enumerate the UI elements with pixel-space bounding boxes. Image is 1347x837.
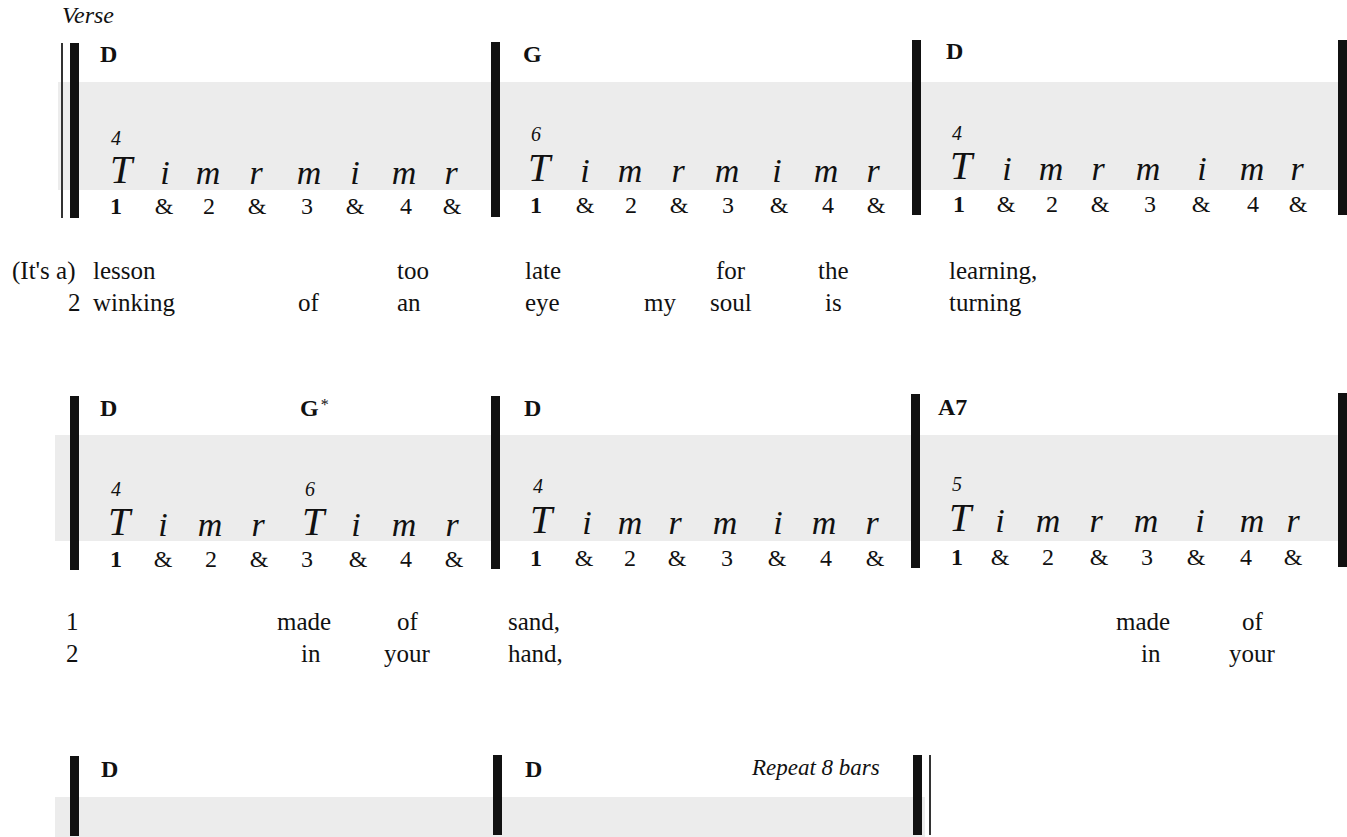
beat-count: & xyxy=(1090,545,1109,569)
lyric-word: lesson xyxy=(93,258,156,283)
beat-count: & xyxy=(576,193,595,217)
beat-count: & xyxy=(155,194,174,218)
beat-count: & xyxy=(248,194,267,218)
beat-count: 3 xyxy=(722,193,734,217)
chord-symbol: D xyxy=(101,756,118,783)
beat-count: & xyxy=(1192,192,1211,216)
beat-count: 1 xyxy=(110,547,122,571)
fingering: i xyxy=(158,508,167,542)
fingering: i xyxy=(995,504,1004,538)
fingering: m xyxy=(1240,152,1265,186)
fingering: r xyxy=(444,156,457,190)
lyric-word: made xyxy=(1116,609,1170,634)
lyric-word: is xyxy=(825,290,842,315)
fingering: m xyxy=(196,156,221,190)
beat-count: & xyxy=(250,547,269,571)
beat-count: 2 xyxy=(1042,545,1054,569)
lyric-word: made xyxy=(277,609,331,634)
fingering: T xyxy=(108,502,130,542)
lyric-word: turning xyxy=(949,290,1021,315)
barline xyxy=(1338,40,1347,215)
beat-count: & xyxy=(991,545,1010,569)
barline xyxy=(911,394,920,568)
beat-count: 3 xyxy=(301,547,313,571)
fingering: m xyxy=(618,154,643,188)
beat-count: 1 xyxy=(530,546,542,570)
beat-count: & xyxy=(154,547,173,571)
fret-number: 4 xyxy=(111,479,121,499)
barline xyxy=(70,43,79,218)
lyric-word: of xyxy=(1242,609,1263,634)
beat-count: & xyxy=(1091,192,1110,216)
fret-number: 6 xyxy=(531,124,541,144)
lyric-word: in xyxy=(1141,641,1160,666)
beat-count: 1 xyxy=(953,192,965,216)
fingering: i xyxy=(772,154,781,188)
beat-count: 2 xyxy=(205,547,217,571)
beat-count: & xyxy=(867,193,886,217)
fingering: r xyxy=(1290,152,1303,186)
fingering: m xyxy=(1039,152,1064,186)
beat-count: 4 xyxy=(820,546,832,570)
fingering: r xyxy=(1286,504,1299,538)
double-barline-thin xyxy=(61,43,63,218)
barline xyxy=(1338,393,1347,567)
beat-count: & xyxy=(1187,545,1206,569)
lyric-word: too xyxy=(397,258,429,283)
lyric-word: in xyxy=(301,641,320,666)
beat-count: 2 xyxy=(624,546,636,570)
beat-count: & xyxy=(575,546,594,570)
fingering: i xyxy=(1195,504,1204,538)
beat-count: & xyxy=(770,193,789,217)
lyric-word: the xyxy=(818,258,849,283)
beat-count: & xyxy=(349,547,368,571)
lyric-verse-number: 2 xyxy=(68,290,81,315)
fret-number: 4 xyxy=(952,123,962,143)
barline xyxy=(70,756,79,836)
lyric-word: your xyxy=(1229,641,1275,666)
lyric-verse-number: 1 xyxy=(66,609,79,634)
lyric-word: sand, xyxy=(508,609,560,634)
lyric-word: learning, xyxy=(949,258,1037,283)
beat-count: 2 xyxy=(625,193,637,217)
fingering: i xyxy=(580,154,589,188)
beat-count: & xyxy=(346,194,365,218)
beat-count: & xyxy=(668,546,687,570)
fingering: m xyxy=(198,508,223,542)
beat-count: 4 xyxy=(822,193,834,217)
fingering: r xyxy=(668,506,681,540)
lyric-word: my xyxy=(644,290,676,315)
beat-count: 1 xyxy=(110,194,122,218)
fingering: m xyxy=(1036,504,1061,538)
fingering: T xyxy=(528,148,550,188)
fret-number: 5 xyxy=(952,474,962,494)
fingering: T xyxy=(530,500,552,540)
beat-count: 3 xyxy=(1141,545,1153,569)
chord-symbol: D xyxy=(525,756,542,783)
lyric-word: your xyxy=(384,641,430,666)
barline xyxy=(493,755,502,835)
beat-count: 3 xyxy=(301,194,313,218)
fingering: m xyxy=(392,156,417,190)
chord-symbol: D xyxy=(100,395,117,422)
beat-count: & xyxy=(443,194,462,218)
lyric-word: for xyxy=(716,258,745,283)
chord-symbol: D xyxy=(946,38,963,65)
beat-count: 4 xyxy=(1240,545,1252,569)
fingering: m xyxy=(814,154,839,188)
beat-count: 3 xyxy=(721,546,733,570)
barline xyxy=(70,396,79,570)
fingering: T xyxy=(110,150,132,190)
lyric-word: hand, xyxy=(508,641,563,666)
fingering: r xyxy=(249,156,262,190)
beat-count: & xyxy=(1284,545,1303,569)
section-label: Verse xyxy=(62,2,114,29)
fret-number: 4 xyxy=(111,128,121,148)
fingering: i xyxy=(351,508,360,542)
beat-count: & xyxy=(1289,192,1308,216)
fingering: i xyxy=(1002,152,1011,186)
fingering: i xyxy=(1197,152,1206,186)
beat-count: 4 xyxy=(400,194,412,218)
fingering: r xyxy=(445,508,458,542)
fingering: T xyxy=(302,502,324,542)
